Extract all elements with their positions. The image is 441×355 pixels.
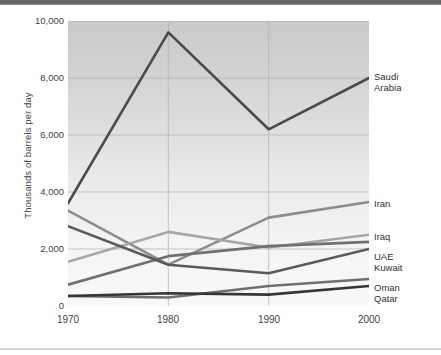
y-tick-label: 8,000 [2, 73, 64, 83]
chart-figure: Thousands of barrels per day 10,000 8,00… [0, 0, 441, 355]
series-label-iraq: Iraq [374, 232, 390, 243]
y-tick-label: 6,000 [2, 130, 64, 140]
series-label-kuwait: Kuwait [374, 263, 403, 274]
x-tick-label: 1970 [38, 314, 98, 325]
y-tick-label: 0 [2, 301, 64, 311]
y-tick-label: 4,000 [2, 187, 64, 197]
line-chart-svg [68, 21, 369, 306]
series-label-uae: UAE [374, 252, 394, 263]
plot-area [68, 21, 369, 306]
series-label-qatar: Qatar [374, 294, 398, 305]
gridlines [68, 21, 369, 306]
x-tick-label: 1980 [138, 314, 198, 325]
y-tick-label: 10,000 [2, 16, 64, 26]
bottom-divider-rule [0, 348, 441, 350]
series-line-saudi-arabia [68, 32, 369, 203]
series-label-oman: Oman [374, 283, 400, 294]
series-line-iran [68, 202, 369, 265]
y-tick-label: 2,000 [2, 244, 64, 254]
series-line-iraq [68, 232, 369, 262]
x-tick-label: 1990 [239, 314, 299, 325]
x-tick-label: 2000 [339, 314, 399, 325]
y-axis-tick-labels: 10,000 8,000 6,000 4,000 2,000 0 [0, 0, 64, 355]
series-lines [68, 32, 369, 297]
top-divider-rule [0, 0, 441, 5]
series-label-iran: Iran [374, 199, 390, 210]
series-label-saudi-arabia: Saudi Arabia [374, 72, 401, 93]
